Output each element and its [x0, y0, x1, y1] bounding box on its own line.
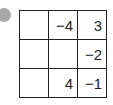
grid-cell — [20, 69, 49, 98]
grid-cell: −4 — [49, 11, 78, 40]
grid-cell: 3 — [78, 11, 107, 40]
grid-cell: −2 — [78, 40, 107, 69]
marker-dot — [0, 8, 11, 22]
grid-cell — [49, 40, 78, 69]
grid-cell: −1 — [78, 69, 107, 98]
number-grid: −4 3 −2 4 −1 — [19, 10, 107, 98]
grid-row: 4 −1 — [20, 69, 107, 98]
grid-cell — [20, 11, 49, 40]
grid-cell: 4 — [49, 69, 78, 98]
grid-row: −2 — [20, 40, 107, 69]
grid-row: −4 3 — [20, 11, 107, 40]
grid-cell — [20, 40, 49, 69]
